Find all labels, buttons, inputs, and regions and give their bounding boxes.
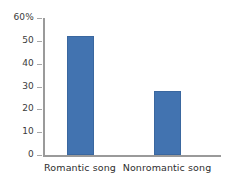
bar-romantic-song [67, 36, 94, 155]
y-tick-mark [37, 41, 42, 42]
y-tick-mark [37, 87, 42, 88]
y-tick-mark [37, 132, 42, 133]
x-axis-line [43, 155, 221, 157]
y-tick-label: 20 [0, 104, 34, 113]
y-tick-label: 0 [0, 150, 34, 159]
bar-chart: 0102030405060% Romantic songNonromantic … [0, 0, 229, 187]
y-tick-label: 50 [0, 36, 34, 45]
y-tick-label: 10 [0, 127, 34, 136]
y-tick-mark [37, 18, 42, 19]
y-tick-label: 30 [0, 82, 34, 91]
y-tick-mark [37, 64, 42, 65]
category-label-1: Nonromantic song [107, 162, 227, 173]
y-tick-mark [37, 155, 42, 156]
bar-nonromantic-song [154, 91, 181, 155]
plot-area [43, 18, 219, 155]
y-tick-label: 40 [0, 59, 34, 68]
y-tick-label: 60% [0, 13, 34, 22]
y-tick-mark [37, 109, 42, 110]
